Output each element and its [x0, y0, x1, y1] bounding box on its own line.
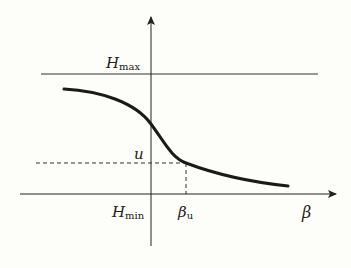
- beta-axis-label: β: [301, 203, 311, 222]
- hmax-label: Hmax: [105, 54, 141, 72]
- diagram: Hmax u Hmin βu β: [0, 0, 351, 268]
- hmin-label: Hmin: [111, 203, 145, 221]
- beta-u-label: βu: [177, 203, 194, 221]
- u-label: u: [134, 145, 144, 163]
- curve: [64, 89, 288, 186]
